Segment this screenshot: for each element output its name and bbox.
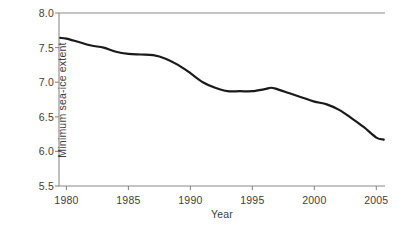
plot-frame [59,13,385,186]
x-tick-label: 2000 [302,194,326,206]
y-tick-label: 7.0 [16,76,54,88]
y-tick-label: 6.5 [16,111,54,123]
chart-figure: 5.56.06.57.07.58.0 198019851990199520002… [0,0,401,233]
y-axis-title: Minimum sea-ice extent [56,42,68,157]
x-axis-title: Year [211,208,233,220]
data-series-group [60,38,384,140]
x-tick-label: 1980 [54,194,78,206]
x-tick-label: 1990 [178,194,202,206]
y-tick-label: 6.0 [16,145,54,157]
x-tick-label: 1985 [116,194,140,206]
y-tick-label: 5.5 [16,180,54,192]
x-tick-label: 1995 [240,194,264,206]
x-tick-label: 2005 [364,194,388,206]
axis-frame [59,13,385,186]
line-series-minimum-sea-ice-extent [60,38,384,140]
y-tick-label: 8.0 [16,7,54,19]
x-axis-ticks [66,186,376,190]
y-tick-label: 7.5 [16,42,54,54]
